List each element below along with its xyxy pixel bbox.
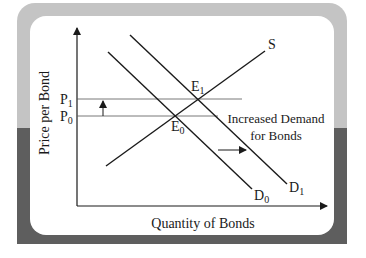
e1-label: E1 [191,79,205,96]
bond-market-diagram: S D0 D1 E1 E0 P1 P0 Increased Demand for… [0,0,366,258]
p0-label: P0 [60,109,73,126]
y-axis-label: Price per Bond [37,71,52,155]
supply-curve [106,51,265,166]
supply-label: S [268,37,276,52]
d1-label: D1 [289,180,304,197]
annotation-line-2: for Bonds [250,128,302,143]
annotation-line-1: Increased Demand [227,111,325,126]
p1-label: P1 [60,92,73,109]
d0-label: D0 [254,188,269,205]
demand-curve-d1 [130,35,287,184]
e0-label: E0 [171,119,185,136]
x-axis-label: Quantity of Bonds [151,216,254,231]
